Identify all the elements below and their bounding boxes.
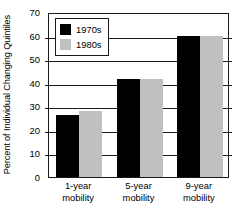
- bar: [200, 36, 223, 177]
- y-axis-title: Percent of Individual Changing Quintiles: [0, 0, 16, 190]
- y-axis-tick-label: 30: [30, 103, 40, 112]
- y-axis-tick-label: 70: [30, 8, 40, 17]
- legend-swatch-1970s: [60, 24, 71, 35]
- x-axis-category-label: 9-yearmobility: [169, 180, 229, 203]
- y-axis-tick-mark: [228, 38, 232, 39]
- bar: [140, 79, 163, 177]
- y-axis-tick-label: 10: [30, 150, 40, 159]
- plot-area: 1970s 1980s: [48, 13, 229, 178]
- y-axis-tick-mark: [228, 132, 232, 133]
- y-axis-title-text: Percent of Individual Changing Quintiles: [3, 15, 12, 174]
- bar: [56, 115, 79, 177]
- bar: [79, 111, 102, 177]
- legend-label-1970s: 1970s: [76, 25, 102, 34]
- x-axis-category-labels: 1-yearmobility5-yearmobility9-yearmobili…: [48, 180, 229, 216]
- y-axis-tick-label: 50: [30, 55, 40, 64]
- legend-label-1980s: 1980s: [76, 40, 102, 49]
- y-axis-tick-label: 0: [35, 173, 40, 182]
- x-axis-category-label: 5-yearmobility: [108, 180, 168, 203]
- legend-item: 1980s: [60, 37, 102, 52]
- y-axis-tick-label: 20: [30, 126, 40, 135]
- y-axis-tick-label: 60: [30, 32, 40, 41]
- bar: [117, 79, 140, 177]
- y-axis-tick-label: 40: [30, 79, 40, 88]
- y-axis-tick-labels: 010203040506070: [16, 0, 44, 218]
- y-axis-tick-mark: [228, 61, 232, 62]
- bar-chart-figure: Percent of Individual Changing Quintiles…: [0, 0, 240, 218]
- legend: 1970s 1980s: [55, 18, 109, 56]
- y-axis-tick-mark: [228, 108, 232, 109]
- legend-swatch-1980s: [60, 39, 71, 50]
- y-axis-tick-mark: [228, 155, 232, 156]
- bar: [177, 36, 200, 177]
- legend-item: 1970s: [60, 22, 102, 37]
- y-axis-tick-mark: [228, 85, 232, 86]
- x-axis-category-label: 1-yearmobility: [48, 180, 108, 203]
